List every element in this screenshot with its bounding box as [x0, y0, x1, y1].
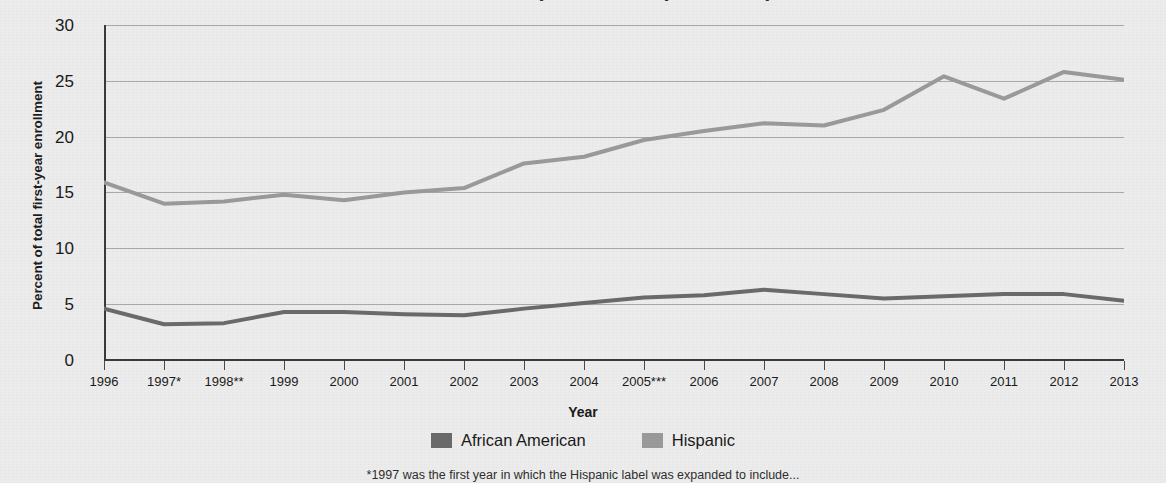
x-tick-mark — [764, 361, 765, 370]
chart-title: Percent of total first-year enrollment b… — [0, 0, 1166, 1]
plot-area — [104, 25, 1124, 360]
x-tick-mark — [164, 361, 165, 370]
legend-item-hispanic: Hispanic — [642, 431, 735, 450]
series-lines — [104, 25, 1124, 361]
x-tick-mark — [404, 361, 405, 370]
x-tick-mark — [944, 361, 945, 370]
legend-swatch-icon — [642, 433, 663, 448]
x-tick-mark — [1004, 361, 1005, 370]
x-tick-mark — [584, 361, 585, 370]
x-tick-mark — [104, 361, 105, 370]
x-tick-mark — [1064, 361, 1065, 370]
x-tick-mark — [704, 361, 705, 370]
x-tick-mark — [1124, 361, 1125, 370]
x-tick-mark — [884, 361, 885, 370]
x-tick-mark — [464, 361, 465, 370]
legend-item-african-american: African American — [431, 431, 586, 450]
chart-figure: Percent of total first-year enrollment b… — [0, 0, 1166, 483]
series-line — [104, 290, 1124, 325]
legend-label: African American — [461, 431, 586, 450]
x-tick-mark — [284, 361, 285, 370]
y-tick-label: 5 — [28, 295, 74, 315]
x-tick-mark — [824, 361, 825, 370]
chart-legend: African American Hispanic — [0, 431, 1166, 450]
x-tick-mark — [524, 361, 525, 370]
series-line — [104, 72, 1124, 204]
y-tick-label: 25 — [28, 72, 74, 92]
legend-swatch-icon — [431, 433, 452, 448]
x-tick-label: 2013 — [1079, 374, 1166, 389]
legend-label: Hispanic — [672, 431, 735, 450]
chart-title-clipped: Percent of total first-year enrollment b… — [0, 0, 1166, 12]
y-tick-label: 15 — [28, 183, 74, 203]
x-tick-mark — [644, 361, 645, 370]
x-axis-title: Year — [0, 404, 1166, 420]
y-tick-label: 10 — [28, 239, 74, 259]
footnote-text: *1997 was the first year in which the Hi… — [0, 470, 1166, 482]
x-tick-mark — [224, 361, 225, 370]
y-tick-label: 30 — [28, 16, 74, 36]
y-tick-label: 20 — [28, 128, 74, 148]
x-tick-mark — [344, 361, 345, 370]
y-tick-label: 0 — [28, 351, 74, 371]
footnote-clipped: *1997 was the first year in which the Hi… — [0, 470, 1166, 483]
